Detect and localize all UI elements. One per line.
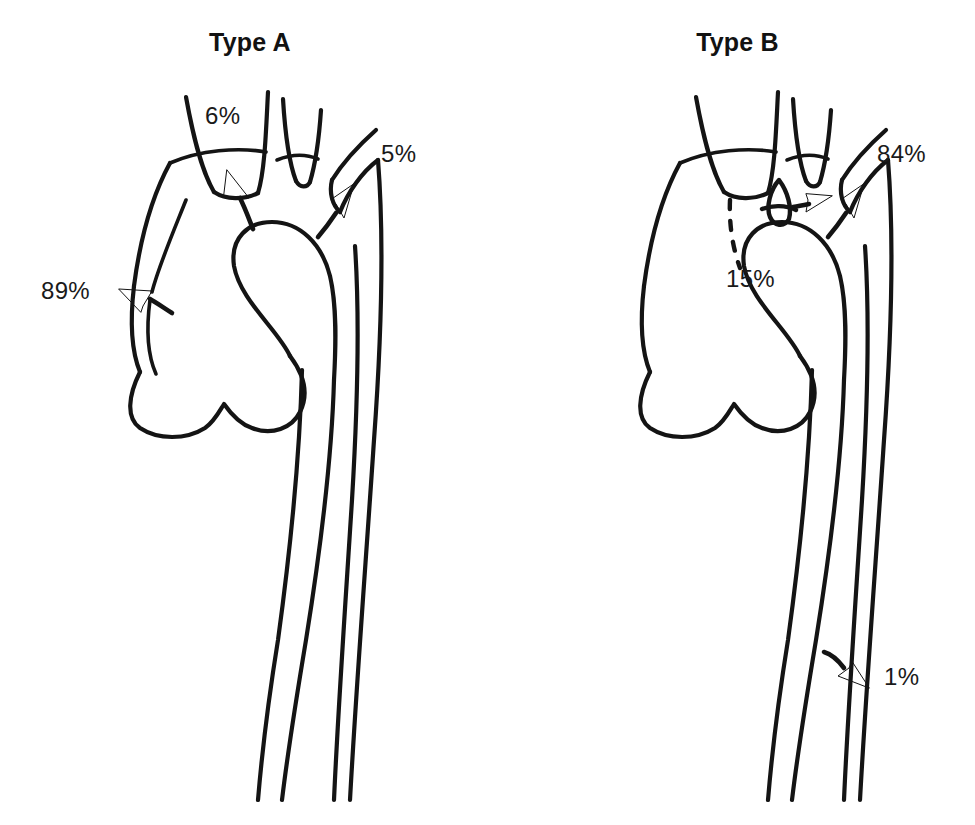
type-b-label-1-percent: 1% [884,663,919,691]
type-b-aortic-root-sinuses [640,356,814,437]
type-b-label-15-percent: 15% [726,265,775,293]
type-b-innominate-base [724,192,768,198]
type-b-descending-anterior-wall [792,380,844,800]
type-b-arch-inner-curve [743,222,845,380]
type-b-innominate-left-wall [696,97,724,192]
type-b-innominate-right-wall [768,92,778,193]
type-b-arrow-1-tail [824,652,844,668]
type-b-carotid-left-wall [793,99,806,181]
type-b-arch-outer-curve-lower [642,286,650,372]
type-b-carotid-right-wall [820,110,831,182]
type-b-arch-outer-curve [644,163,680,286]
type-b-intimal-tear-leaflet [768,180,790,225]
type-b-carotid-base [806,181,820,186]
type-b-subclavian-arch-junction [841,180,850,212]
type-b-label-84-percent: 84% [877,140,926,168]
aortic-dissection-figure: Type A [0,0,975,825]
type-b-aorta-drawing [0,0,975,825]
type-b-arch-roof-left [680,150,776,163]
type-b-arch-roof-mid [787,155,828,160]
type-b-descending-inner-wall [768,370,812,800]
type-b-dissection-flap-dashed [730,200,740,268]
type-b-arrow-84-tail [828,213,846,237]
